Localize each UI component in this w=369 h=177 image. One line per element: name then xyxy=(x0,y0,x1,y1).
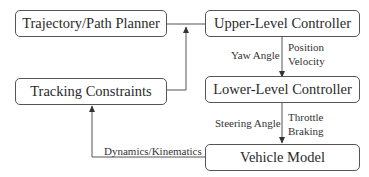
node-tracking-constraints: Tracking Constraints xyxy=(15,78,167,105)
edge-label-position: Position xyxy=(288,41,324,53)
edge-label-braking: Braking xyxy=(288,125,323,137)
node-lower-level-controller: Lower-Level Controller xyxy=(205,76,360,103)
edge-label-yaw-angle: Yaw Angle xyxy=(231,49,280,61)
edge-label-dynamics-kinematics: Dynamics/Kinematics xyxy=(104,145,202,157)
node-upper-level-controller: Upper-Level Controller xyxy=(205,10,360,37)
edge-label-steering-angle: Steering Angle xyxy=(215,117,281,129)
edge-label-velocity: Velocity xyxy=(288,55,325,67)
edge-label-throttle: Throttle xyxy=(288,111,323,123)
node-vehicle-model: Vehicle Model xyxy=(205,144,360,171)
node-trajectory-path-planner: Trajectory/Path Planner xyxy=(15,10,167,37)
